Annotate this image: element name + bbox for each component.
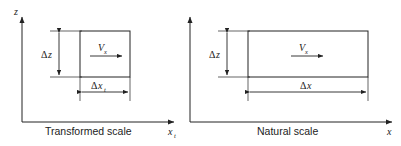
panel-natural: x Δ z Δ x V x Natural scale	[190, 17, 392, 137]
delta-xt-label-delta: Δ	[91, 80, 98, 91]
delta-x-label-delta: Δ	[300, 80, 307, 91]
delta-xt-label-var: x	[97, 80, 103, 91]
xt-axis-label: x	[167, 126, 173, 137]
delta-z-label-var: z	[215, 49, 220, 60]
diagram-svg: z x t Δ z Δ x t V x Transformed scale	[0, 0, 401, 146]
panel-caption-natural: Natural scale	[257, 125, 318, 137]
delta-xt-label-subscript: t	[104, 86, 106, 93]
panel-caption-transformed: Transformed scale	[45, 125, 132, 137]
velocity-label-subscript: x	[103, 48, 107, 55]
panel-transformed: z x t Δ z Δ x t V x Transformed scale	[13, 6, 176, 139]
xt-axis-label-subscript: t	[174, 132, 176, 139]
delta-z-label-delta: Δ	[209, 49, 216, 60]
delta-z-label-delta: Δ	[41, 49, 48, 60]
figure-canvas: z x t Δ z Δ x t V x Transformed scale	[0, 0, 401, 146]
delta-x-label-var: x	[306, 80, 312, 91]
z-axis-label: z	[13, 6, 18, 17]
control-volume-box	[248, 31, 368, 77]
x-axis-label: x	[386, 126, 392, 137]
velocity-label-subscript: x	[304, 48, 308, 55]
delta-z-label-var: z	[47, 49, 52, 60]
